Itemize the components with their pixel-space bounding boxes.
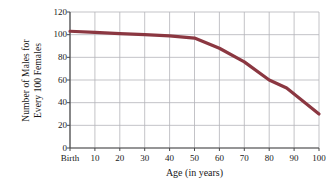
x-tick-label: 20 [115,154,124,163]
x-tick-label: 70 [240,154,249,163]
x-tick-label: Birth [61,154,80,163]
chart-figure: Number of Males for Every 100 Females 02… [0,0,336,186]
x-tick-label: 10 [90,154,99,163]
x-axis-tick-labels: Birth102030405060708090100 [0,0,336,186]
x-tick-label: 80 [265,154,274,163]
x-tick-label: 50 [190,154,199,163]
x-tick-label: 60 [215,154,224,163]
x-tick-label: 30 [140,154,149,163]
x-tick-label: 100 [312,154,326,163]
x-tick-label: 40 [165,154,174,163]
x-tick-label: 90 [290,154,299,163]
x-axis-label: Age (in years) [70,167,319,178]
